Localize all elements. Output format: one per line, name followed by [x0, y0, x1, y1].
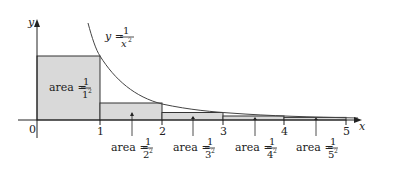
svg-text:1: 1 — [83, 76, 89, 87]
svg-text:1: 1 — [123, 25, 129, 36]
area-label-5: area = 1 5 2 — [296, 136, 338, 160]
function-label: y = 1 x 2 — [104, 25, 134, 49]
svg-text:1: 1 — [145, 136, 151, 147]
svg-text:x: x — [121, 38, 127, 49]
y-axis-arrow-icon — [34, 19, 40, 27]
svg-text:1: 1 — [207, 136, 213, 147]
svg-text:area =: area = — [49, 81, 87, 94]
area-label-2: area = 1 2 2 — [111, 136, 153, 160]
svg-text:2: 2 — [149, 147, 153, 154]
rectangle-2 — [100, 103, 162, 120]
area-label-4: area = 1 4 2 — [235, 136, 277, 160]
area-label-3: area = 1 3 2 — [173, 136, 215, 160]
y-axis-label: y — [27, 16, 35, 29]
svg-text:2: 2 — [128, 36, 132, 43]
svg-text:2: 2 — [334, 147, 338, 154]
riemann-sum-diagram: y x 0 1 2 3 4 5 y = 1 x 2 area = 1 1 2 a… — [0, 0, 404, 174]
origin-label: 0 — [29, 123, 36, 136]
svg-text:1: 1 — [269, 136, 275, 147]
tick-label-5: 5 — [343, 125, 350, 138]
svg-text:2: 2 — [273, 147, 277, 154]
tick-label-2: 2 — [159, 125, 166, 138]
svg-text:2: 2 — [88, 87, 92, 94]
tick-label-4: 4 — [281, 125, 288, 138]
x-axis-label: x — [359, 120, 366, 133]
tick-label-1: 1 — [97, 125, 104, 138]
svg-text:2: 2 — [211, 147, 215, 154]
tick-label-3: 3 — [220, 125, 227, 138]
svg-text:1: 1 — [330, 136, 336, 147]
